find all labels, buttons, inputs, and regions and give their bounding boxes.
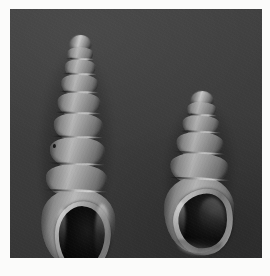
specimen-right-basal-lip — [176, 238, 223, 256]
screenshot-root: tall elongate high-spired shell, apex at… — [0, 0, 270, 276]
specimen-left — [30, 21, 130, 258]
specimen-photograph — [10, 9, 262, 258]
specimen-right — [151, 79, 252, 258]
